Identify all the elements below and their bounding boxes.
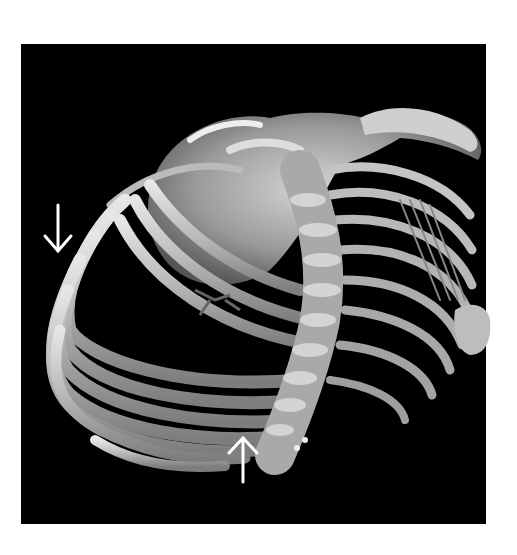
ct-rib-cage-figure <box>0 0 517 555</box>
right-ribs <box>330 167 472 420</box>
arrow-down-icon <box>45 205 71 251</box>
rib-cage-rendering <box>0 0 517 555</box>
